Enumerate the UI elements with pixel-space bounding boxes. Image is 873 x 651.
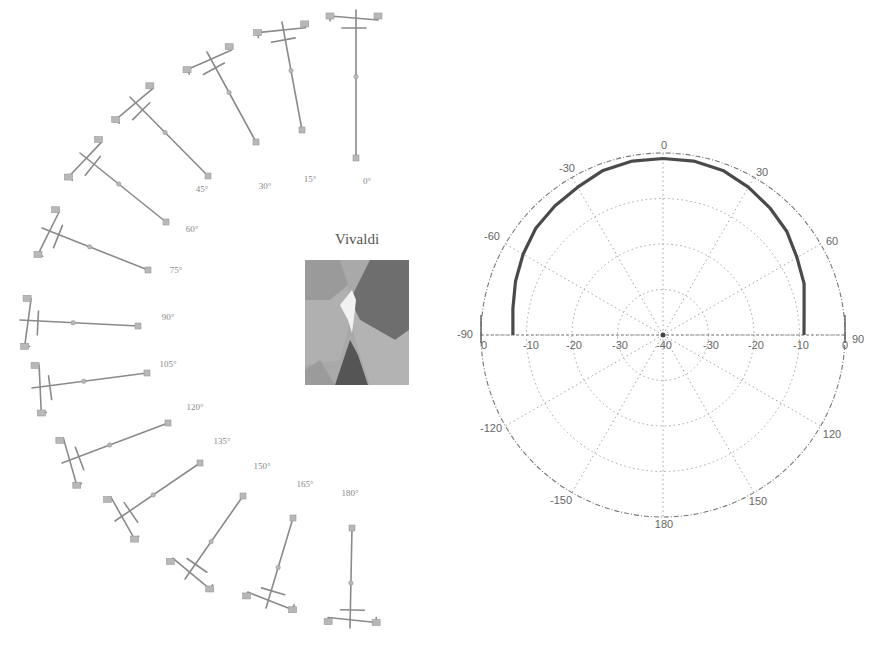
polar-center-dot (661, 333, 666, 338)
angle-label: 165° (296, 479, 314, 489)
angle-label: 90° (162, 312, 175, 322)
polar-angle-label: -90 (457, 328, 473, 340)
angle-label: 30° (259, 181, 272, 191)
vivaldi-panel: Vivaldi (305, 231, 409, 385)
radial-label: -40 (656, 339, 672, 351)
angle-label: 60° (186, 224, 199, 234)
stick-figure: 0° (326, 10, 382, 186)
polar-angle-label: -60 (484, 230, 500, 242)
radial-label: -20 (748, 339, 764, 351)
polar-angle-label: -150 (550, 494, 572, 506)
radial-label: 0 (842, 339, 848, 351)
polar-angle-label: 0 (661, 139, 667, 151)
polar-grid-spoke (505, 244, 663, 335)
angle-label: 120° (186, 402, 204, 412)
polar-angle-label: -120 (480, 422, 502, 434)
angle-label: 135° (213, 436, 231, 446)
polar-angle-label: 150 (749, 495, 767, 507)
polar-grid-spoke (663, 335, 754, 493)
radial-label: -30 (612, 339, 628, 351)
stick-figure: 180° (324, 488, 380, 628)
radial-label: -10 (523, 339, 539, 351)
stick-figure: 150° (166, 461, 271, 592)
stick-figure: 165° (243, 479, 314, 613)
polar-angle-label: 180 (655, 518, 673, 530)
angle-label: 45° (196, 184, 209, 194)
angle-label: 180° (341, 488, 359, 498)
vivaldi-image (305, 260, 409, 385)
radial-label: -30 (703, 339, 719, 351)
angle-label: 105° (159, 359, 177, 369)
figure: 0°15°30°45°60°75°90°105°120°135°150°165°… (0, 0, 873, 651)
angle-label: 75° (170, 265, 183, 275)
stick-figure: 135° (104, 436, 231, 542)
radial-label: -10 (793, 339, 809, 351)
angle-label: 0° (363, 176, 372, 186)
radial-label: -20 (566, 339, 582, 351)
polar-angle-label: 30 (756, 166, 768, 178)
polar-grid-spoke (572, 335, 663, 493)
polar-grid-spoke (572, 177, 663, 335)
stick-figure: 30° (183, 44, 272, 191)
radiation-pattern-curve (513, 159, 804, 336)
angle-label: 15° (304, 174, 317, 184)
stick-figure: 45° (112, 83, 211, 194)
polar-angle-label: 90 (852, 333, 864, 345)
polar-angle-label: 60 (826, 235, 838, 247)
polar-angle-label: 120 (823, 428, 841, 440)
stick-figure: 90° (20, 295, 175, 349)
angle-label: 150° (253, 461, 271, 471)
vivaldi-title: Vivaldi (335, 231, 379, 247)
radial-label: 0 (481, 339, 487, 351)
stick-figure: 105° (31, 359, 177, 416)
stick-figure: 60° (64, 137, 198, 234)
polar-grid-spoke (663, 177, 754, 335)
polar-radial-labels: 0 -10 -20 -30 -40 -30 -20 -10 0 (481, 339, 848, 351)
polar-plot (481, 153, 845, 517)
stick-figure: 15° (254, 21, 317, 184)
polar-angle-label: -30 (559, 162, 575, 174)
